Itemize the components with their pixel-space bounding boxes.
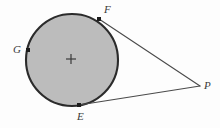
point-marker-g [26,48,30,52]
point-label-f: F [104,4,111,15]
point-marker-e [77,103,81,107]
point-label-e: E [77,111,84,122]
point-label-p: P [204,80,211,91]
figure-canvas [0,0,220,128]
point-marker-f [97,17,101,21]
point-label-g: G [13,44,21,55]
geometry-figure: F G E P [0,0,220,128]
circle-shape [26,14,118,106]
